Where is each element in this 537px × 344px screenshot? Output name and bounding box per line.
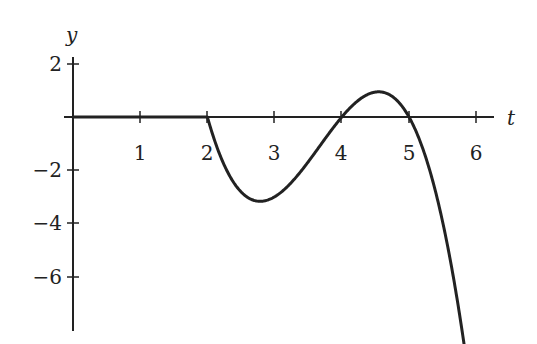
x-tick-label: 1 bbox=[134, 141, 147, 165]
y-axis-label: y bbox=[65, 23, 78, 47]
y-tick-label: −2 bbox=[33, 158, 62, 182]
y-tick-label: −4 bbox=[33, 211, 62, 235]
function-curve bbox=[73, 92, 464, 344]
x-tick-label: 6 bbox=[470, 141, 483, 165]
y-tick-label: −6 bbox=[33, 265, 62, 289]
y-tick-label: 2 bbox=[49, 52, 62, 76]
chart: 1 2 3 4 5 6 2 −2 −4 −6 t y bbox=[0, 0, 537, 344]
x-tick-label: 4 bbox=[335, 141, 348, 165]
x-tick-label: 2 bbox=[201, 141, 214, 165]
x-tick-label: 5 bbox=[403, 141, 416, 165]
x-axis-label: t bbox=[507, 106, 516, 130]
x-tick-label: 3 bbox=[268, 141, 281, 165]
